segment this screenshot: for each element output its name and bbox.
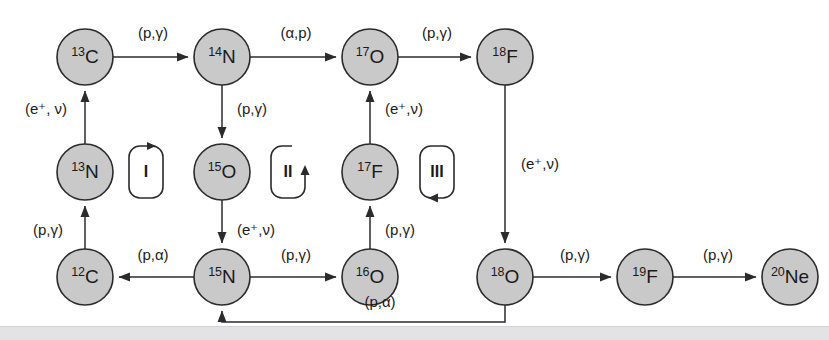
nuclide-node-c13[interactable]: 13C (57, 29, 113, 85)
cycle-roman-numeral: III (430, 163, 443, 180)
cycle-roman-numeral: II (284, 163, 293, 180)
mass-number: 18 (492, 45, 506, 59)
edge-label-o16-f17: (p,γ) (385, 221, 415, 238)
mass-number: 16 (356, 265, 370, 279)
nuclide-node-f18[interactable]: 18F (477, 29, 533, 85)
cycle-marker-iii: III (420, 146, 454, 203)
mass-number: 20 (771, 265, 785, 279)
mass-number: 15 (208, 265, 222, 279)
edge-label-n14-o15: (p,γ) (237, 100, 267, 117)
cycle-loop-arrowhead-icon (428, 194, 438, 203)
cycle-loop-arrowhead-icon (301, 165, 310, 175)
nuclide-node-ne20[interactable]: 20Ne (762, 249, 818, 305)
mass-number: 12 (71, 265, 85, 279)
edge-label-f19-ne20: (p,γ) (703, 246, 733, 263)
nuclide-node-f17[interactable]: 17F (342, 144, 398, 200)
cycle-loop-arrowhead-icon (147, 142, 156, 150)
edge-label-n13-c13: (e⁺, ν) (25, 100, 67, 117)
element-symbol: N (222, 266, 236, 287)
edge-label-o18-n15: (p,α) (364, 293, 395, 310)
nuclide-node-o18[interactable]: 18O (477, 249, 533, 305)
element-symbol: N (85, 161, 99, 182)
nuclide-node-n13[interactable]: 13N (57, 144, 113, 200)
nuclide-node-o15[interactable]: 15O (194, 144, 250, 200)
element-symbol: O (370, 46, 385, 67)
element-symbol: Ne (785, 266, 809, 287)
element-symbol: N (222, 46, 236, 67)
edge-label-o15-n15: (e⁺,ν) (237, 221, 275, 238)
nuclide-node-n15[interactable]: 15N (194, 249, 250, 305)
edge-label-c13-n14: (p,γ) (138, 24, 168, 41)
mass-number: 19 (632, 265, 646, 279)
edge-label-n15-o16: (p,γ) (281, 246, 311, 263)
element-symbol: C (85, 266, 99, 287)
element-symbol: F (646, 266, 658, 287)
edge-label-f17-o17: (e⁺,ν) (385, 100, 423, 117)
edge-label-n15-c12: (p,α) (137, 246, 168, 263)
element-symbol: C (85, 46, 99, 67)
nuclide-node-f19[interactable]: 19F (617, 249, 673, 305)
mass-number: 14 (208, 45, 222, 59)
edge-label-o18-f19: (p,γ) (560, 246, 590, 263)
edge-label-n14-o17: (α,p) (280, 24, 311, 41)
element-symbol: F (371, 161, 383, 182)
cycle-roman-numeral: I (144, 163, 148, 180)
edge-label-c12-n13: (p,γ) (33, 221, 63, 238)
mass-number: 13 (71, 160, 85, 174)
edge-label-f18-o18: (e⁺,ν) (521, 155, 559, 172)
mass-number: 18 (491, 265, 505, 279)
nuclide-node-o17[interactable]: 17O (342, 29, 398, 85)
element-symbol: O (370, 266, 385, 287)
mass-number: 17 (356, 45, 370, 59)
element-symbol: O (222, 161, 237, 182)
element-symbol: O (505, 266, 520, 287)
mass-number: 17 (357, 160, 371, 174)
cycle-marker-i: I (129, 142, 163, 198)
cycle-marker-ii: II (271, 146, 310, 198)
edge-label-o17-f18: (p,γ) (422, 24, 452, 41)
nuclide-node-c12[interactable]: 12C (57, 249, 113, 305)
footer-band (0, 326, 829, 340)
mass-number: 15 (208, 160, 222, 174)
nuclide-node-n14[interactable]: 14N (194, 29, 250, 85)
mass-number: 13 (71, 45, 85, 59)
element-symbol: F (506, 46, 518, 67)
cycle-markers-layer: IIIIII (129, 142, 454, 203)
